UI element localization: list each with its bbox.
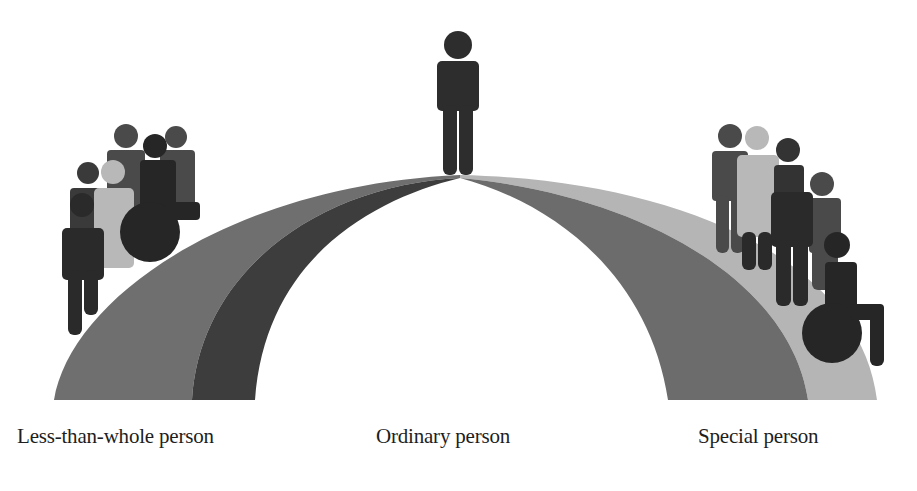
label-less-than-whole-person: Less-than-whole person: [17, 424, 214, 449]
label-ordinary-person: Ordinary person: [376, 424, 510, 449]
person-figure: [774, 138, 804, 200]
label-special-person: Special person: [698, 424, 818, 449]
ordinary-person-figure: [437, 31, 479, 175]
arch-diagram: [0, 0, 917, 491]
